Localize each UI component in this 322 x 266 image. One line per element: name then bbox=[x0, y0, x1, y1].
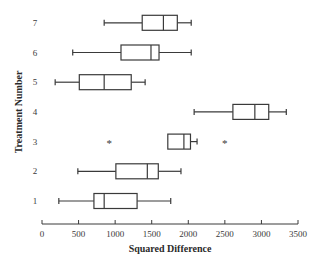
iqr-box bbox=[116, 164, 158, 179]
box-plot-treatment-4 bbox=[194, 104, 286, 119]
x-tick-label: 500 bbox=[72, 229, 86, 239]
y-tick-label: 7 bbox=[33, 18, 38, 28]
x-tick-label: 2000 bbox=[179, 229, 198, 239]
box-plot-treatment-3: ** bbox=[107, 134, 228, 149]
box-plot-treatment-7 bbox=[104, 15, 191, 30]
x-axis-title: Squared Difference bbox=[129, 243, 212, 254]
y-tick-label: 1 bbox=[33, 196, 38, 206]
iqr-box bbox=[233, 104, 269, 119]
box-plot-chart: ** 0500100015002000250030003500 1234567 … bbox=[0, 0, 322, 266]
iqr-box bbox=[94, 194, 137, 209]
y-tick-label: 2 bbox=[33, 166, 38, 176]
x-tick-label: 1000 bbox=[106, 229, 125, 239]
x-tick-label: 1500 bbox=[143, 229, 162, 239]
iqr-box bbox=[79, 75, 131, 90]
x-tick-label: 2500 bbox=[216, 229, 235, 239]
x-tick-label: 3500 bbox=[289, 229, 308, 239]
box-plot-series: ** bbox=[55, 15, 286, 208]
outlier-marker: * bbox=[107, 137, 113, 149]
outlier-marker: * bbox=[222, 137, 228, 149]
x-tick-label: 3000 bbox=[252, 229, 271, 239]
y-tick-label: 6 bbox=[33, 48, 38, 58]
box-plot-treatment-5 bbox=[55, 75, 145, 90]
box-plot-treatment-1 bbox=[59, 194, 171, 209]
y-tick-label: 3 bbox=[33, 137, 38, 147]
x-tick-label: 0 bbox=[40, 229, 45, 239]
iqr-box bbox=[168, 134, 191, 149]
box-plot-treatment-6 bbox=[73, 45, 191, 60]
box-plot-treatment-2 bbox=[78, 164, 181, 179]
y-tick-label: 4 bbox=[33, 107, 38, 117]
y-axis-title: Treatment Number bbox=[13, 70, 24, 153]
y-axis: 1234567 bbox=[33, 18, 38, 206]
x-axis: 0500100015002000250030003500 bbox=[40, 220, 308, 239]
iqr-box bbox=[142, 15, 177, 30]
y-tick-label: 5 bbox=[33, 77, 38, 87]
iqr-box bbox=[121, 45, 159, 60]
